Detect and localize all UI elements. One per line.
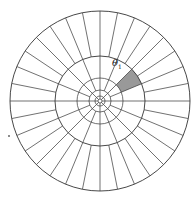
theta-subscript: 1 <box>118 63 122 70</box>
radial-spoke <box>79 105 90 110</box>
radial-spoke <box>79 92 90 97</box>
radial-spoke <box>104 93 108 97</box>
radial-spoke <box>36 37 68 69</box>
radial-spoke <box>36 133 68 165</box>
radial-spoke <box>92 105 96 109</box>
radial-spoke <box>109 13 118 57</box>
polar-grid-diagram <box>0 0 196 201</box>
radial-spoke <box>104 111 109 122</box>
radial-spoke <box>58 110 78 118</box>
radial-spoke <box>108 85 116 93</box>
radial-spoke <box>82 145 91 189</box>
radial-spoke <box>121 110 141 118</box>
radial-spoke <box>58 84 78 92</box>
radial-spoke <box>12 83 56 92</box>
radial-spoke <box>68 69 84 85</box>
theta-label: θ1 <box>112 58 122 70</box>
marker-dot <box>8 135 10 137</box>
radial-spoke <box>110 105 121 110</box>
radial-spoke <box>144 110 188 119</box>
radial-spoke <box>101 102 103 104</box>
ring-circle-5 <box>98 99 102 103</box>
radial-spoke <box>96 102 98 104</box>
radial-spoke <box>83 122 91 142</box>
radial-spoke <box>83 59 91 79</box>
radial-spoke <box>104 105 108 109</box>
radial-spoke <box>109 145 118 189</box>
radial-spoke <box>84 85 92 93</box>
radial-spoke <box>116 117 132 133</box>
radial-spoke <box>68 117 84 133</box>
radial-spoke <box>132 37 164 69</box>
radial-spoke <box>96 97 98 99</box>
radial-spoke <box>101 97 103 99</box>
radial-spoke <box>91 111 96 122</box>
radial-spoke <box>12 110 56 119</box>
radial-spoke <box>144 83 188 92</box>
radial-spoke <box>82 13 91 57</box>
radial-spoke <box>91 80 96 91</box>
radial-spoke <box>92 93 96 97</box>
radial-spoke <box>132 133 164 165</box>
radial-spoke <box>110 92 121 97</box>
radial-spoke <box>104 80 109 91</box>
radial-spoke <box>84 109 92 117</box>
radial-spoke <box>108 109 116 117</box>
radial-spoke <box>109 122 117 142</box>
